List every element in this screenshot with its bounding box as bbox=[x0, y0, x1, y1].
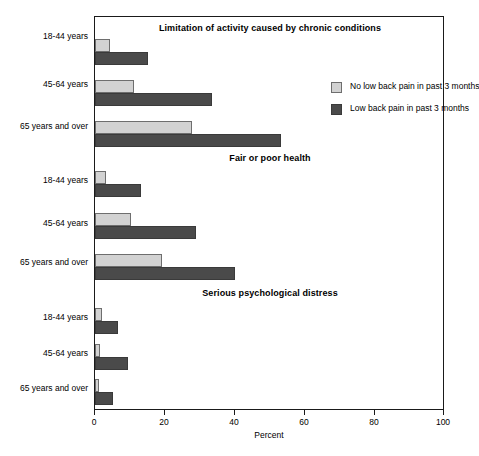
x-tick-label: 60 bbox=[299, 417, 308, 427]
bar-dark bbox=[95, 392, 113, 405]
category-label: 65 years and over bbox=[2, 383, 88, 393]
category-label: 18-44 years bbox=[2, 312, 88, 322]
category-label: 65 years and over bbox=[2, 257, 88, 267]
x-tick bbox=[94, 410, 95, 415]
category-label: 18-44 years bbox=[2, 31, 88, 41]
panel-title: Serious psychological distress bbox=[95, 288, 445, 298]
x-tick-label: 20 bbox=[159, 417, 168, 427]
bar-light bbox=[95, 121, 192, 134]
category-label: 45-64 years bbox=[2, 348, 88, 358]
bar-light bbox=[95, 344, 100, 357]
category-label: 45-64 years bbox=[2, 218, 88, 228]
bar-light bbox=[95, 379, 99, 392]
bar-dark bbox=[95, 321, 118, 334]
bar-dark bbox=[95, 226, 196, 239]
x-tick-label: 100 bbox=[436, 417, 450, 427]
x-tick bbox=[234, 410, 235, 415]
legend-swatch-low-back-pain bbox=[331, 104, 342, 115]
legend-label: Low back pain in past 3 months bbox=[350, 103, 469, 113]
legend-swatch-no-low-back-pain bbox=[331, 82, 342, 93]
panel-title: Limitation of activity caused by chronic… bbox=[95, 23, 445, 33]
x-tick bbox=[443, 410, 444, 415]
category-label: 65 years and over bbox=[2, 121, 88, 131]
bar-light bbox=[95, 39, 110, 52]
bar-light bbox=[95, 308, 102, 321]
bar-dark bbox=[95, 134, 281, 147]
x-tick bbox=[374, 410, 375, 415]
x-tick-label: 40 bbox=[229, 417, 238, 427]
x-tick-label: 80 bbox=[369, 417, 378, 427]
x-tick bbox=[304, 410, 305, 415]
bar-light bbox=[95, 254, 162, 267]
category-label: 18-44 years bbox=[2, 175, 88, 185]
x-tick bbox=[164, 410, 165, 415]
bar-light bbox=[95, 213, 131, 226]
bar-dark bbox=[95, 52, 148, 65]
bar-dark bbox=[95, 93, 212, 106]
bar-dark bbox=[95, 267, 235, 280]
bar-dark bbox=[95, 184, 141, 197]
legend-label: No low back pain in past 3 months bbox=[350, 81, 479, 91]
x-tick-label: 0 bbox=[92, 417, 97, 427]
panel-title: Fair or poor health bbox=[95, 153, 445, 163]
bar-light bbox=[95, 80, 134, 93]
bar-dark bbox=[95, 357, 128, 370]
x-axis-title: Percent bbox=[94, 430, 444, 440]
bar-light bbox=[95, 171, 106, 184]
category-label: 45-64 years bbox=[2, 79, 88, 89]
plot-area: Limitation of activity caused by chronic… bbox=[94, 16, 444, 410]
